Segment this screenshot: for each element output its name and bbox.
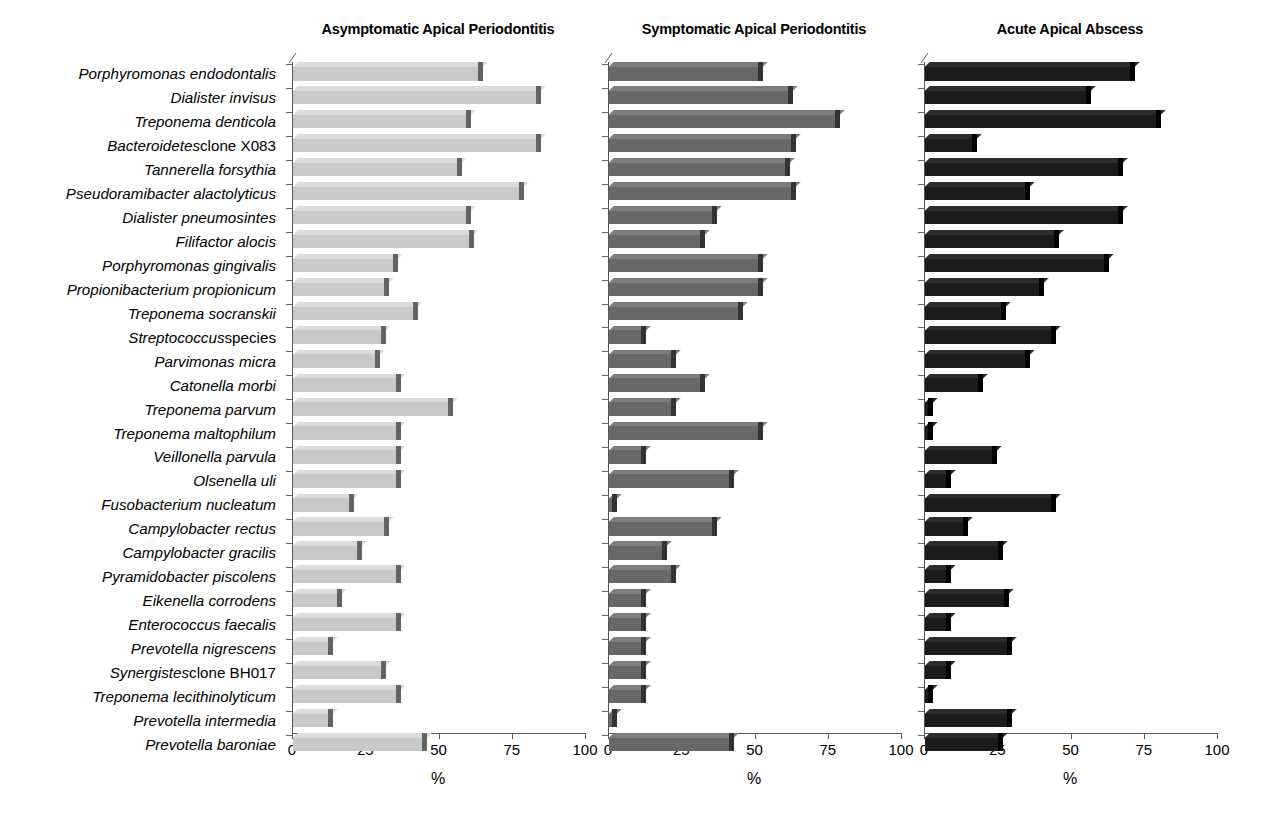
y-axis-tick — [918, 471, 924, 472]
species-label-italic: Campylobacter gracilis — [122, 544, 276, 561]
bar — [609, 235, 700, 249]
y-axis-tick — [918, 711, 924, 712]
bar-face-front — [925, 402, 928, 416]
y-axis-tick — [286, 615, 292, 616]
bar-face-front — [293, 283, 384, 297]
species-label-italic: Treponema lecithinolyticum — [92, 688, 276, 705]
bar-face-side — [791, 182, 796, 200]
bar-face-front — [609, 570, 671, 584]
x-axis-tick-label: 75 — [503, 741, 520, 758]
bar-face-side — [478, 62, 483, 80]
bar-face-front — [609, 259, 758, 273]
bar-face-side — [396, 422, 401, 440]
bar-face-front — [293, 450, 396, 464]
bar — [925, 139, 972, 153]
bar — [609, 67, 758, 81]
bar — [609, 283, 758, 297]
bar-face-side — [641, 685, 646, 703]
species-label: Treponema lecithinolyticum — [0, 684, 283, 708]
bar-face-front — [609, 522, 712, 536]
y-axis-tick — [918, 519, 924, 520]
bar — [293, 666, 381, 680]
bar-face-front — [925, 67, 1130, 81]
bar — [925, 714, 1007, 728]
bar-face-front — [293, 522, 384, 536]
x-axis-tick — [439, 733, 440, 739]
bar-face-side — [1004, 589, 1009, 607]
y-axis-tick — [918, 351, 924, 352]
bar — [609, 354, 671, 368]
bar-face-side — [396, 446, 401, 464]
bar-face-side — [337, 589, 342, 607]
bar-face-front — [925, 330, 1051, 344]
y-axis-tick — [602, 471, 608, 472]
y-axis-tick — [602, 639, 608, 640]
species-label: Treponema parvum — [0, 397, 283, 421]
y-axis-tick — [602, 375, 608, 376]
bar — [609, 642, 641, 656]
bar — [609, 714, 612, 728]
bar-face-front — [925, 714, 1007, 728]
bar — [293, 139, 536, 153]
y-axis-tick — [602, 399, 608, 400]
bar-face-side — [328, 709, 333, 727]
bar — [925, 474, 946, 488]
y-axis-tick — [602, 232, 608, 233]
species-label: Enterococcus faecalis — [0, 613, 283, 637]
x-axis-tick — [1144, 733, 1145, 739]
bar-face-side — [1051, 326, 1056, 344]
y-axis-tick — [602, 351, 608, 352]
bar-face-side — [519, 182, 524, 200]
bar-face-front — [609, 67, 758, 81]
species-label-italic: Synergistes — [110, 664, 189, 681]
bar-face-front — [609, 91, 788, 105]
bar-face-side — [1118, 158, 1123, 176]
bar — [609, 546, 662, 560]
bar — [293, 522, 384, 536]
bar-face-side — [946, 565, 951, 583]
y-axis-tick — [602, 567, 608, 568]
bar-face-front — [293, 498, 349, 512]
x-axis-tick — [755, 733, 756, 739]
bar-face-front — [293, 546, 357, 560]
bar — [293, 330, 381, 344]
bar — [609, 474, 729, 488]
y-axis-tick — [286, 136, 292, 137]
bar-face-side — [712, 206, 717, 224]
panel-title-3: Acute Apical Abscess — [870, 21, 1270, 37]
bar — [609, 450, 641, 464]
y-axis-tick — [286, 304, 292, 305]
bar — [293, 163, 457, 177]
species-label: Dialister invisus — [0, 86, 283, 110]
y-axis-tick — [286, 112, 292, 113]
species-label-axis: Porphyromonas endodontalisDialister invi… — [0, 62, 283, 756]
species-label-italic: Pseudoramibacter alactolyticus — [66, 185, 276, 202]
x-axis-tick-label: 75 — [1135, 741, 1152, 758]
bar — [925, 426, 928, 440]
bar-face-side — [758, 254, 763, 272]
bar-face-front — [293, 139, 536, 153]
bar-face-front — [609, 235, 700, 249]
y-axis-tick — [286, 280, 292, 281]
bar — [609, 187, 791, 201]
bar-face-front — [609, 307, 738, 321]
bar-face-side — [328, 637, 333, 655]
bar — [293, 738, 422, 752]
bar — [293, 450, 396, 464]
y-axis-tick — [602, 256, 608, 257]
bar-face-side — [357, 541, 362, 559]
y-axis-tick — [602, 495, 608, 496]
bar — [609, 594, 641, 608]
bar-face-front — [925, 570, 946, 584]
bar-face-side — [466, 110, 471, 128]
bar-face-side — [758, 62, 763, 80]
y-axis-tick — [286, 447, 292, 448]
y-axis-tick — [602, 136, 608, 137]
y-axis-tick — [286, 711, 292, 712]
bar-face-front — [293, 666, 381, 680]
bar — [609, 307, 738, 321]
bar — [293, 211, 466, 225]
y-axis-tick — [286, 519, 292, 520]
bar-face-side — [1086, 86, 1091, 104]
bar-face-side — [422, 733, 427, 751]
